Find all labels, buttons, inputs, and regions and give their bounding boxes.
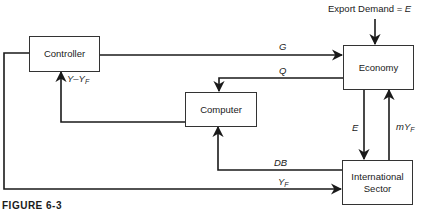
edge-label-e: E (352, 122, 358, 133)
controller-box: Controller (29, 36, 100, 72)
q-arrow (219, 78, 343, 91)
export-demand-var: E (405, 3, 411, 14)
edge-label-g: G (279, 41, 286, 52)
yf-arrow (4, 53, 341, 189)
economy-box: Economy (343, 45, 414, 90)
edge-label-y-minus-yf: Y–YF (67, 73, 89, 85)
export-demand-label: Export Demand = E (328, 3, 411, 14)
edge-label-db: DB (274, 157, 287, 168)
computer-box: Computer (185, 92, 257, 127)
figure-caption: FIGURE 6-3 (2, 200, 62, 211)
edge-label-q: Q (279, 65, 286, 76)
economy-label: Economy (359, 62, 399, 74)
international-sector-label-line1: International (351, 171, 403, 183)
international-sector-box: International Sector (342, 160, 413, 205)
international-sector-label-line2: Sector (364, 183, 391, 195)
controller-label: Controller (44, 48, 85, 60)
computer-label: Computer (200, 104, 242, 116)
edge-label-yf: YF (278, 176, 289, 188)
edge-label-myf: mYF (396, 121, 415, 133)
